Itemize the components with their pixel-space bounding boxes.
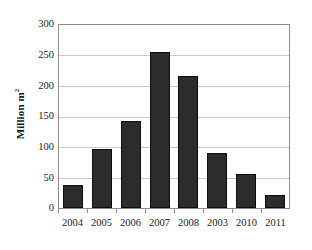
x-axis-tick-label: 2003	[203, 216, 232, 232]
x-axis-tick	[58, 209, 87, 214]
x-axis-tick-label: 2008	[174, 216, 203, 232]
bar-slot	[232, 25, 261, 208]
bar[interactable]	[236, 174, 256, 208]
x-axis-tick	[87, 209, 116, 214]
bar-slot	[117, 25, 146, 208]
bar-slot	[59, 25, 88, 208]
y-axis-tick-labels: 300 250 200 150 100 50 0	[26, 24, 54, 209]
x-axis-ticks	[58, 209, 290, 214]
x-axis-tick-label: 2010	[232, 216, 261, 232]
plot-area	[58, 24, 290, 209]
y-axis-tick-label: 100	[26, 142, 54, 152]
bar-slot	[145, 25, 174, 208]
x-axis-tick	[232, 209, 261, 214]
bar-slot	[174, 25, 203, 208]
x-axis-tick	[203, 209, 232, 214]
y-axis-tick-label: 50	[26, 173, 54, 183]
bar[interactable]	[207, 153, 227, 208]
bar-chart: Million m2 300 250 200 150 100 50 0	[0, 0, 312, 250]
y-axis-tick-label: 250	[26, 50, 54, 60]
y-axis-tick-label: 0	[26, 203, 54, 213]
bar-slot	[260, 25, 289, 208]
bar-slot	[88, 25, 117, 208]
x-axis-tick	[116, 209, 145, 214]
x-axis-tick-label: 2005	[87, 216, 116, 232]
bar[interactable]	[121, 121, 141, 208]
x-axis-tick-label: 2007	[145, 216, 174, 232]
bar[interactable]	[92, 149, 112, 208]
y-axis-tick-label: 200	[26, 81, 54, 91]
bars-layer	[59, 25, 289, 208]
y-axis-title-superscript: 2	[13, 89, 21, 93]
bar[interactable]	[63, 185, 83, 208]
bar[interactable]	[265, 195, 285, 208]
y-axis-tick-label: 150	[26, 111, 54, 121]
y-axis-title-text: Million m	[14, 92, 26, 139]
bar[interactable]	[178, 76, 198, 208]
bar[interactable]	[150, 52, 170, 208]
x-axis-tick-label: 2006	[116, 216, 145, 232]
x-axis-tick-label: 2011	[261, 216, 290, 232]
x-axis-tick	[145, 209, 174, 214]
bar-slot	[203, 25, 232, 208]
x-axis-tick-labels: 2004 2005 2006 2007 2008 2003 2010 2011	[58, 216, 290, 232]
x-axis-tick	[261, 209, 290, 214]
y-axis-tick-label: 300	[26, 19, 54, 29]
x-axis-tick-label: 2004	[58, 216, 87, 232]
x-axis-tick	[174, 209, 203, 214]
